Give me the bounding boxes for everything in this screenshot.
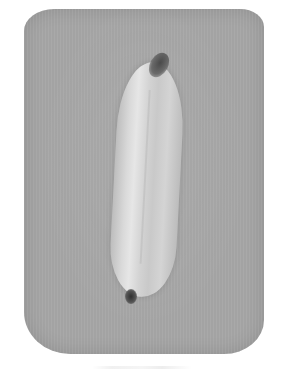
faint-caption [92,366,192,369]
banana-ridge [140,90,151,264]
photo-scene [0,0,286,374]
banana-tip [125,289,137,304]
